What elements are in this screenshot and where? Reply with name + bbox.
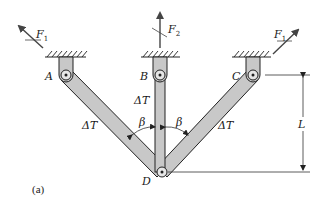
- bar-ad: [61, 70, 167, 177]
- hatch-icon: [143, 51, 178, 57]
- hatch-icon: [234, 51, 269, 57]
- bar-cd: [157, 70, 258, 177]
- bar-label-bd: ΔT: [133, 94, 151, 107]
- angle-label-right: β: [175, 116, 182, 129]
- force-label-f2: F2: [167, 23, 180, 38]
- support-label-b: B: [139, 70, 148, 83]
- bar-bd: [155, 75, 165, 172]
- support-label-c: C: [232, 70, 241, 83]
- force-label-f1-right: F1: [273, 28, 286, 43]
- bar-label-ad: ΔT: [81, 119, 99, 132]
- figure-caption: (a): [32, 183, 45, 196]
- hatch-icon: [47, 51, 87, 57]
- force-label-f1-left: F1: [35, 28, 48, 43]
- support-label-a: A: [44, 70, 53, 83]
- force-f2: [152, 13, 167, 48]
- bar-label-cd: ΔT: [217, 119, 235, 132]
- dimension-label-l: L: [297, 118, 305, 131]
- joint-label-d: D: [141, 175, 151, 188]
- truss-diagram: F1 F2 F1 A B C D ΔT ΔT ΔT β β L (a): [0, 0, 327, 209]
- joint-d: [157, 167, 167, 177]
- angle-label-left: β: [138, 116, 145, 129]
